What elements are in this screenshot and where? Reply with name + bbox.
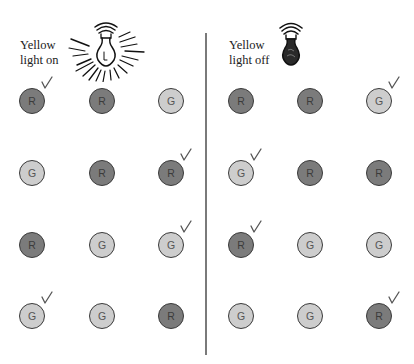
light-dot-right-r4-c1: G (228, 303, 254, 329)
panel-left-label-line2: light on (20, 53, 59, 68)
checkmark-icon (179, 220, 193, 234)
light-bulb-off-icon (276, 18, 306, 68)
panel-right-label-line2: light off (229, 53, 269, 68)
light-dot-left-r1-c3: G (158, 88, 184, 114)
light-dot-right-r2-c3: R (366, 160, 392, 186)
checkmark-icon (387, 76, 401, 90)
light-dot-right-r1-c1: R (228, 88, 254, 114)
checkmark-icon (40, 291, 54, 305)
panel-left-label: Yellow light on (20, 38, 59, 68)
light-dot-left-r3-c2: G (89, 232, 115, 258)
checkmark-icon (179, 148, 193, 162)
light-dot-left-r2-c2: R (89, 160, 115, 186)
checkmark-icon (249, 220, 263, 234)
light-dot-right-r4-c2: G (297, 303, 323, 329)
panel-divider (205, 33, 207, 355)
light-dot-right-r3-c3: G (366, 232, 392, 258)
light-dot-right-r2-c1: G (228, 160, 254, 186)
light-dot-right-r3-c2: G (297, 232, 323, 258)
light-dot-right-r4-c3: R (366, 303, 392, 329)
light-dot-left-r4-c1: G (19, 303, 45, 329)
light-dot-right-r2-c2: R (297, 160, 323, 186)
panel-right-label: Yellow light off (229, 38, 269, 68)
checkmark-icon (249, 148, 263, 162)
light-dot-right-r3-c1: R (228, 232, 254, 258)
light-dot-right-r1-c2: R (297, 88, 323, 114)
panel-right-label-line1: Yellow (229, 38, 269, 53)
light-dot-left-r1-c1: R (19, 88, 45, 114)
light-dot-left-r3-c1: R (19, 232, 45, 258)
checkmark-icon (40, 76, 54, 90)
light-dot-left-r1-c2: R (89, 88, 115, 114)
light-bulb-on-icon (63, 10, 149, 82)
panel-left-label-line1: Yellow (20, 38, 59, 53)
light-dot-left-r4-c2: G (89, 303, 115, 329)
light-dot-left-r3-c3: G (158, 232, 184, 258)
light-dot-left-r2-c1: G (19, 160, 45, 186)
light-dot-right-r1-c3: G (366, 88, 392, 114)
checkmark-icon (387, 291, 401, 305)
light-dot-left-r4-c3: R (158, 303, 184, 329)
light-dot-left-r2-c3: R (158, 160, 184, 186)
